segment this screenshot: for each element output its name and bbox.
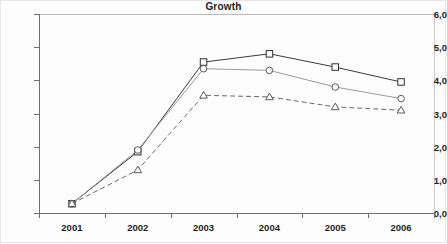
marker-circle	[135, 147, 142, 154]
series-line	[72, 69, 401, 204]
marker-circle	[200, 65, 207, 72]
marker-triangle	[200, 92, 208, 99]
marker-circle	[398, 95, 405, 102]
marker-circle	[266, 67, 273, 74]
marker-triangle	[331, 103, 339, 110]
growth-line-chart: Growth 6,05,04,03,02,01,00,0 20012002200…	[0, 0, 447, 244]
series-square-group	[69, 51, 405, 207]
series-line	[72, 54, 401, 204]
marker-square	[200, 59, 207, 66]
marker-square	[332, 64, 339, 71]
marker-circle	[332, 84, 339, 91]
marker-square	[266, 51, 273, 58]
series-triangle-group	[68, 92, 405, 207]
series-circle-group	[69, 65, 405, 207]
series-line	[72, 95, 401, 203]
marker-square	[398, 79, 405, 86]
series-layer	[0, 0, 447, 244]
marker-triangle	[134, 166, 142, 173]
